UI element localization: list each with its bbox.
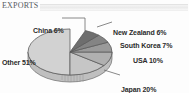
leader-line-japan <box>104 70 120 75</box>
chart-header: EXPORTS <box>0 0 189 13</box>
page-title: EXPORTS <box>2 1 38 10</box>
chart-canvas: China 6% Other 51% New Zealand 6% South … <box>0 13 189 93</box>
slice-label-japan: Japan 20% <box>121 86 156 93</box>
slice-label-china: China 6% <box>33 27 64 34</box>
pie-chart-graphic <box>0 13 189 93</box>
header-divider <box>40 4 188 11</box>
exports-pie-chart-screenshot: EXPORTS <box>0 0 189 93</box>
leader-line-new-zealand <box>97 22 112 27</box>
slice-label-new-zealand: New Zealand 6% <box>113 29 166 36</box>
slice-label-other: Other 51% <box>2 59 36 66</box>
slice-label-usa: USA 10% <box>133 57 163 64</box>
pie-slices <box>28 29 112 75</box>
slice-label-south-korea: South Korea 7% <box>120 42 172 49</box>
